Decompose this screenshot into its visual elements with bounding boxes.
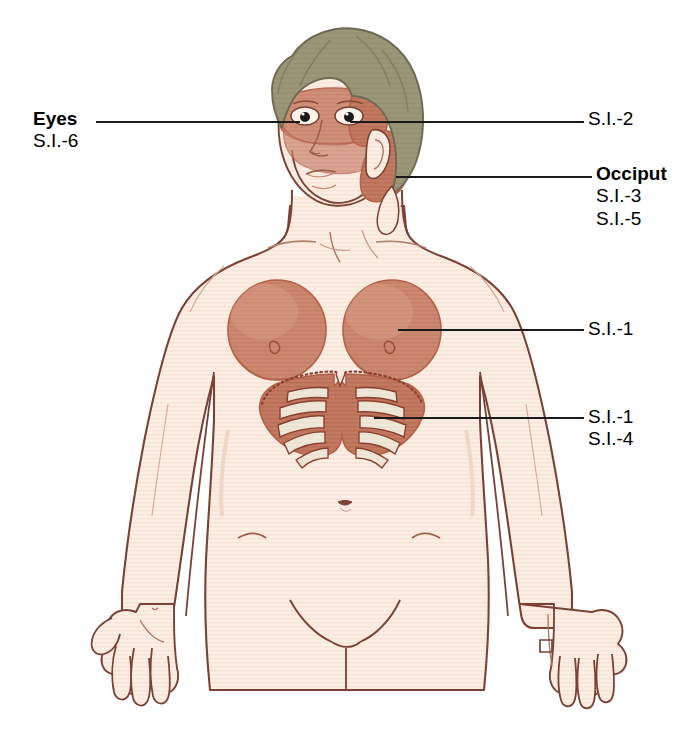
right-eye-highlight <box>345 112 348 115</box>
label-occiput-title: Occiput <box>596 163 667 185</box>
right-finger-2 <box>578 658 596 708</box>
label-eyes: Eyes S.I.-6 <box>33 108 78 153</box>
label-eyes-code-0: S.I.-6 <box>33 130 78 152</box>
right-finger-3 <box>597 654 614 702</box>
label-occiput-code-0: S.I.-3 <box>596 185 667 207</box>
label-occiput-code-1: S.I.-5 <box>596 208 667 230</box>
label-eyes-title: Eyes <box>33 108 78 130</box>
label-breast: S.I.-1 <box>588 318 633 340</box>
left-eye-highlight <box>301 112 304 115</box>
label-si2-code-0: S.I.-2 <box>588 108 633 130</box>
right-finger-1 <box>559 656 577 706</box>
label-breast-code-0: S.I.-1 <box>588 318 633 340</box>
label-si2: S.I.-2 <box>588 108 633 130</box>
left-finger-3 <box>151 648 170 703</box>
label-ribs: S.I.-1 S.I.-4 <box>588 406 633 451</box>
label-ribs-code-1: S.I.-4 <box>588 428 633 450</box>
label-ribs-code-0: S.I.-1 <box>588 406 633 428</box>
label-occiput: Occiput S.I.-3 S.I.-5 <box>596 163 667 230</box>
